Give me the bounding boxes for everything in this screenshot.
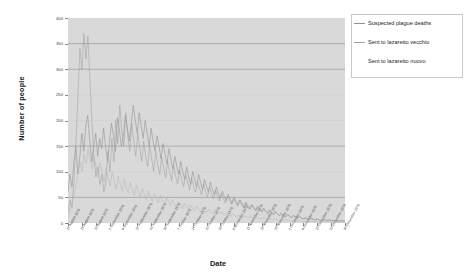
legend-color-swatch	[354, 23, 365, 24]
x-tick-mark	[234, 223, 235, 226]
x-tick-mark	[151, 223, 152, 226]
x-tick-mark	[248, 223, 249, 226]
y-tick-label: 300	[37, 67, 63, 72]
y-tick-label: 100	[37, 169, 63, 174]
y-tick-label: 150	[37, 144, 63, 149]
plot-lines	[68, 18, 345, 223]
y-tick-label: 200	[37, 118, 63, 123]
chart-legend: Suspected plague deathsSent to lazaretto…	[351, 14, 463, 78]
legend-color-swatch	[354, 42, 365, 43]
series-line	[68, 105, 345, 221]
plague-line-chart: Number of people Date 050100150200250300…	[0, 0, 466, 278]
legend-label: Suspected plague deaths	[368, 20, 460, 27]
x-tick-mark	[193, 223, 194, 226]
x-tick-mark	[179, 223, 180, 226]
x-tick-mark	[96, 223, 97, 226]
x-tick-label: 30 December 1576	[343, 203, 361, 231]
y-tick-label: 350	[37, 41, 63, 46]
x-axis-title: Date	[188, 259, 248, 268]
x-tick-mark	[290, 223, 291, 226]
x-tick-mark	[68, 223, 69, 226]
x-tick-mark	[345, 223, 346, 226]
y-tick-label: 0	[37, 221, 63, 226]
x-tick-mark	[317, 223, 318, 226]
legend-label: Sent to lazaretto vecchio	[368, 39, 460, 46]
x-tick-mark	[220, 223, 221, 226]
x-tick-mark	[123, 223, 124, 226]
y-tick-mark	[65, 223, 68, 224]
x-tick-mark	[137, 223, 138, 226]
x-tick-mark	[303, 223, 304, 226]
x-tick-mark	[207, 223, 208, 226]
y-tick-label: 50	[37, 195, 63, 200]
x-tick-mark	[262, 223, 263, 226]
x-tick-mark	[110, 223, 111, 226]
x-tick-mark	[331, 223, 332, 226]
x-tick-mark	[276, 223, 277, 226]
series-line	[68, 33, 345, 221]
x-tick-mark	[82, 223, 83, 226]
y-tick-label: 400	[37, 16, 63, 21]
legend-label: Sent to lazaretto nuovo	[368, 58, 460, 65]
y-tick-label: 250	[37, 92, 63, 97]
x-tick-mark	[165, 223, 166, 226]
series-line	[68, 149, 345, 222]
y-axis-title: Number of people	[17, 54, 26, 164]
